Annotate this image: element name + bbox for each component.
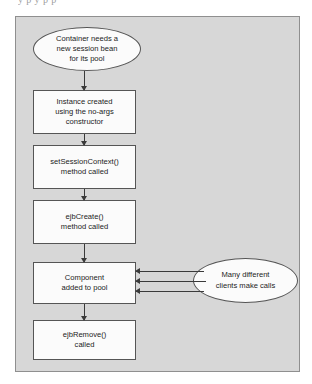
node-text-line: clients make calls	[216, 281, 276, 291]
node-text-line: ejbCreate()	[66, 212, 104, 222]
arrow-head-down-icon	[81, 141, 87, 146]
flow-node-component-added-to-pool: Component added to pool	[33, 262, 136, 304]
arrow-clients-to-component-2	[136, 281, 206, 282]
arrow-head-down-icon	[81, 258, 87, 263]
arrow-head-left-icon	[135, 288, 140, 294]
arrow-ejbcreate-to-component	[84, 244, 85, 262]
node-text-line: called	[75, 340, 95, 350]
node-text-line: for its pool	[69, 54, 104, 64]
node-text-line: added to pool	[61, 283, 107, 293]
arrow-clients-to-component-3	[136, 291, 204, 292]
flow-node-container-needs-bean: Container needs a new session bean for i…	[33, 27, 141, 71]
arrow-head-left-icon	[135, 278, 140, 284]
arrow-instance-to-setsessioncontext	[84, 134, 85, 145]
node-text-line: setSessionContext()	[50, 157, 118, 167]
node-text-line: Component	[65, 273, 104, 283]
arrow-setsessioncontext-to-ejbcreate	[84, 189, 85, 200]
node-text-line: Many different	[222, 270, 270, 280]
node-text-line: method called	[61, 167, 108, 177]
arrow-head-down-icon	[81, 196, 87, 201]
flow-node-ejb-remove: ejbRemove() called	[33, 320, 136, 360]
node-text-line: constructor	[66, 117, 104, 127]
figure-page: y p y p p Container needs a new session …	[0, 0, 312, 384]
flow-node-instance-created: Instance created using the no-args const…	[33, 90, 136, 134]
arrow-head-down-icon	[81, 316, 87, 321]
arrow-head-left-icon	[135, 268, 140, 274]
node-text-line: Instance created	[56, 97, 112, 107]
flowchart-panel: Container needs a new session bean for i…	[15, 16, 300, 372]
node-text-line: using the no-args	[55, 107, 114, 117]
node-text-line: method called	[61, 222, 108, 232]
flow-node-set-session-context: setSessionContext() method called	[33, 145, 136, 189]
node-text-line: ejbRemove()	[63, 330, 106, 340]
arrow-container-to-instance	[84, 71, 85, 90]
flow-node-many-clients: Many different clients make calls	[193, 258, 298, 303]
node-text-line: new session bean	[57, 44, 118, 54]
arrow-component-to-ejbremove	[84, 304, 85, 320]
node-text-line: Container needs a	[56, 34, 118, 44]
arrow-clients-to-component-1	[136, 271, 204, 272]
arrow-head-down-icon	[81, 86, 87, 91]
flow-node-ejb-create: ejbCreate() method called	[33, 200, 136, 244]
clipped-body-text-above-figure: y p y p p	[0, 0, 312, 5]
